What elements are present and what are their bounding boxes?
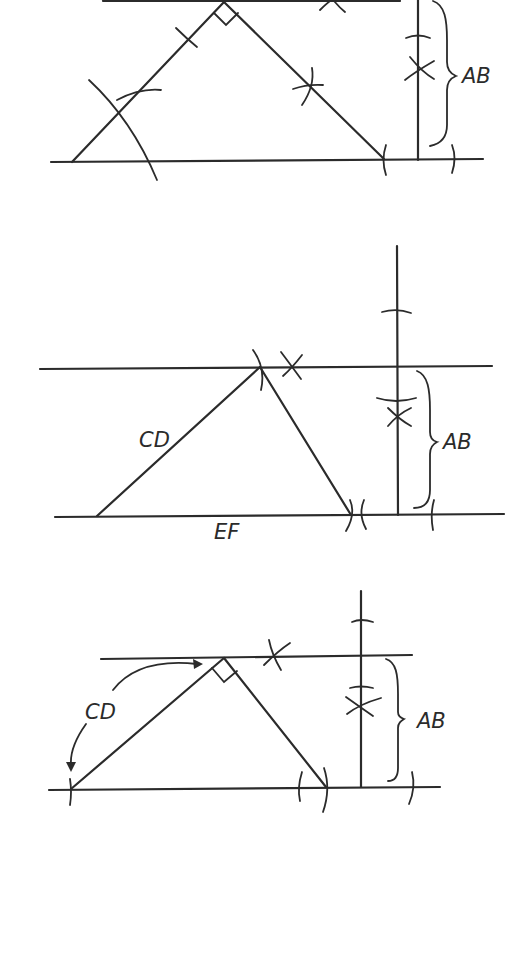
curved-arrow-to-apex: [113, 663, 197, 690]
arc-mark: [299, 772, 302, 801]
right-side: [260, 367, 351, 515]
arc-mark: [176, 28, 197, 47]
top-parallel-line: [101, 655, 412, 659]
curved-arrow-to-base: [71, 724, 86, 765]
arc-mark: [70, 779, 71, 805]
arc-mark: [352, 620, 373, 622]
base-line: [55, 514, 504, 517]
left-side: [72, 2, 224, 162]
perpendicular-line: [397, 246, 398, 515]
height-brace: [430, 1, 456, 146]
right-angle-marker: [214, 13, 238, 25]
right-side: [224, 658, 326, 787]
arc-mark: [293, 85, 323, 89]
label-cd: CD: [139, 428, 170, 452]
figure-1: AB: [51, 0, 491, 180]
label-ab: AB: [415, 709, 446, 733]
figure-2: CD EF AB: [40, 246, 504, 544]
angle-arc: [89, 80, 157, 180]
side-cd: [97, 367, 260, 516]
arrowhead-icon: [193, 659, 203, 669]
top-parallel-line: [40, 366, 492, 369]
label-ab: AB: [441, 430, 472, 454]
arc-mark: [323, 768, 327, 812]
arc-mark: [334, 1, 345, 12]
label-ab: AB: [460, 64, 491, 88]
label-cd: CD: [85, 700, 116, 724]
height-brace: [386, 659, 404, 781]
arrowhead-icon: [66, 762, 76, 772]
arc-mark: [117, 90, 161, 100]
construction-diagram: AB CD EF AB: [0, 0, 528, 977]
right-side: [224, 2, 384, 159]
base-line: [49, 787, 440, 790]
label-ef: EF: [214, 520, 240, 544]
height-brace: [414, 371, 437, 508]
figure-3: AB CD: [49, 591, 446, 812]
